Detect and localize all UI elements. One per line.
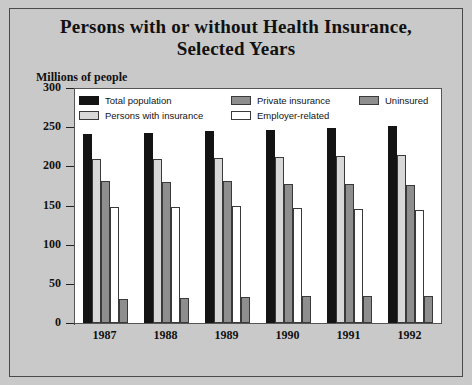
bar-1989-employer-related bbox=[232, 206, 241, 323]
bar-1988-uninsured bbox=[180, 298, 189, 323]
bar-1992-persons-with-insurance bbox=[397, 155, 406, 323]
bar-1991-persons-with-insurance bbox=[336, 156, 345, 323]
bar-1989-private-insurance bbox=[223, 181, 232, 323]
bar-1987-employer-related bbox=[110, 207, 119, 323]
bar-group-1989 bbox=[205, 89, 250, 323]
bar-1988-employer-related bbox=[171, 207, 180, 323]
bar-1991-total-population bbox=[327, 128, 336, 323]
legend-row-1: Total population Private insurance Unins… bbox=[79, 93, 437, 108]
bar-1988-total-population bbox=[144, 133, 153, 323]
y-tick-50 bbox=[66, 284, 74, 285]
bar-1991-uninsured bbox=[363, 296, 372, 323]
bar-1989-uninsured bbox=[241, 297, 250, 323]
x-tick-label-1988: 1988 bbox=[135, 328, 196, 343]
bar-group-1990 bbox=[266, 89, 311, 323]
y-tick-300 bbox=[66, 88, 74, 89]
x-tick-label-1991: 1991 bbox=[318, 328, 379, 343]
bar-1991-private-insurance bbox=[345, 184, 354, 323]
x-tick-label-1990: 1990 bbox=[257, 328, 318, 343]
y-tick-100 bbox=[66, 245, 74, 246]
bar-1987-private-insurance bbox=[101, 181, 110, 323]
y-tick-label-50: 50 bbox=[49, 276, 61, 291]
chart-legend: Total population Private insurance Unins… bbox=[79, 93, 437, 123]
y-tick-250 bbox=[66, 127, 74, 128]
bar-1990-total-population bbox=[266, 130, 275, 323]
bar-1990-employer-related bbox=[293, 208, 302, 323]
bar-1989-total-population bbox=[205, 131, 214, 323]
chart-figure: Persons with or without Health Insurance… bbox=[0, 0, 472, 385]
bar-1987-uninsured bbox=[119, 299, 128, 323]
y-tick-label-200: 200 bbox=[43, 158, 61, 173]
y-tick-label-300: 300 bbox=[43, 80, 61, 95]
bar-1992-private-insurance bbox=[406, 185, 415, 323]
bar-1988-private-insurance bbox=[162, 182, 171, 323]
bar-1990-uninsured bbox=[302, 296, 311, 323]
bar-group-1988 bbox=[144, 89, 189, 323]
bar-1992-total-population bbox=[388, 126, 397, 323]
bar-1991-employer-related bbox=[354, 209, 363, 323]
chart-title-line2: Selected Years bbox=[0, 38, 472, 60]
bar-1987-total-population bbox=[83, 134, 92, 323]
bar-group-1991 bbox=[327, 89, 372, 323]
y-tick-150 bbox=[66, 206, 74, 207]
bar-1987-persons-with-insurance bbox=[92, 159, 101, 324]
bar-1992-uninsured bbox=[424, 296, 433, 323]
x-tick-label-1989: 1989 bbox=[196, 328, 257, 343]
y-tick-200 bbox=[66, 166, 74, 167]
bar-1990-persons-with-insurance bbox=[275, 157, 284, 323]
legend-row-2: Persons with insurance Employer-related bbox=[79, 108, 437, 123]
y-tick-label-150: 150 bbox=[43, 198, 61, 213]
y-tick-0 bbox=[66, 323, 74, 324]
x-tick-label-1992: 1992 bbox=[379, 328, 440, 343]
y-tick-label-100: 100 bbox=[43, 237, 61, 252]
bar-1988-persons-with-insurance bbox=[153, 159, 162, 323]
bar-group-1987 bbox=[83, 89, 128, 323]
bar-1990-private-insurance bbox=[284, 184, 293, 323]
chart-title-line1: Persons with or without Health Insurance… bbox=[60, 16, 412, 37]
chart-title: Persons with or without Health Insurance… bbox=[0, 16, 472, 60]
y-tick-label-250: 250 bbox=[43, 119, 61, 134]
bar-1992-employer-related bbox=[415, 210, 424, 323]
bar-1989-persons-with-insurance bbox=[214, 158, 223, 323]
bar-group-1992 bbox=[388, 89, 433, 323]
plot-area: Total population Private insurance Unins… bbox=[74, 88, 442, 324]
y-tick-label-0: 0 bbox=[55, 315, 61, 330]
x-tick-label-1987: 1987 bbox=[74, 328, 135, 343]
